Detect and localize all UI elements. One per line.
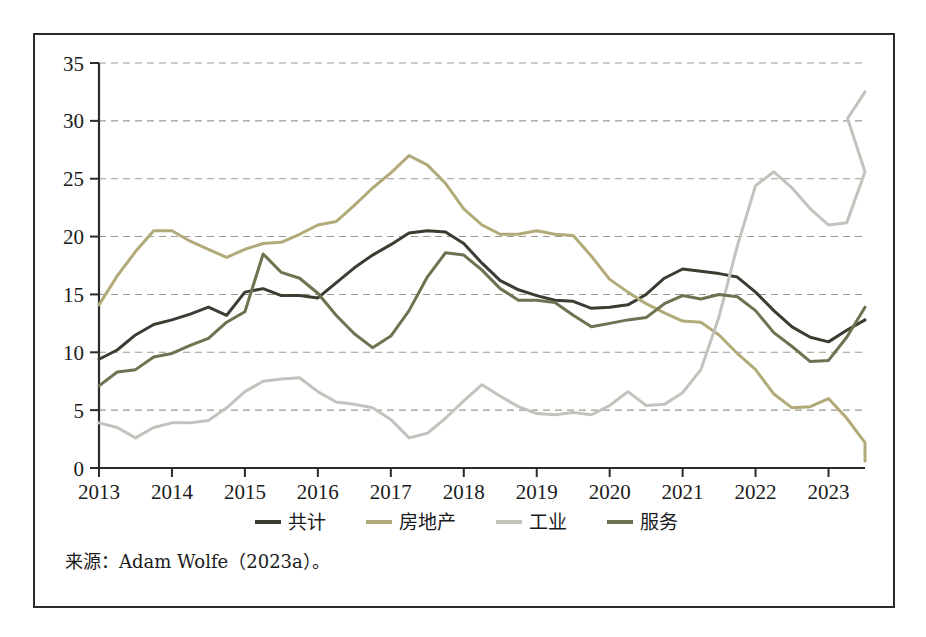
y-tick-label: 25	[63, 167, 84, 191]
y-tick-label: 35	[63, 52, 84, 76]
legend-swatch-icon	[366, 520, 392, 524]
legend-label: 工业	[529, 513, 567, 532]
x-tick-label: 2018	[443, 480, 485, 504]
legend-label: 房地产	[399, 513, 456, 532]
y-tick-label: 20	[63, 225, 84, 249]
y-tick-label: 15	[63, 283, 84, 307]
x-tick-label: 2013	[78, 480, 120, 504]
x-tick-label: 2019	[516, 480, 558, 504]
x-tick-label: 2015	[224, 480, 266, 504]
legend-item: 房地产	[366, 513, 456, 532]
y-tick-label: 5	[74, 399, 85, 423]
legend-swatch-icon	[255, 520, 281, 524]
y-tick-label: 30	[63, 109, 84, 133]
x-tick-label: 2020	[589, 480, 631, 504]
x-tick-label: 2014	[151, 480, 194, 504]
series-line	[99, 231, 865, 359]
legend-item: 共计	[255, 513, 326, 532]
y-tick-label: 10	[63, 341, 84, 365]
x-tick-label: 2017	[370, 480, 412, 504]
x-tick-label: 2023	[808, 480, 850, 504]
legend-item: 工业	[496, 513, 567, 532]
legend-swatch-icon	[496, 520, 522, 524]
x-tick-label: 2021	[662, 480, 704, 504]
x-tick-label: 2022	[735, 480, 777, 504]
y-tick-label: 0	[74, 457, 85, 481]
source-note: 来源：Adam Wolfe（2023a）。	[65, 547, 330, 573]
legend-item: 服务	[607, 513, 678, 532]
x-tick-label: 2016	[297, 480, 339, 504]
legend-label: 共计	[288, 513, 326, 532]
legend-swatch-icon	[607, 520, 633, 524]
chart-legend: 共计房地产工业服务	[35, 505, 897, 539]
figure-frame: 0510152025303520132014201520162017201820…	[33, 33, 895, 608]
legend-label: 服务	[640, 513, 678, 532]
